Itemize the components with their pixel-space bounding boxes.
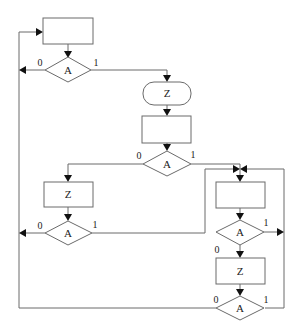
arrowhead-into-bottom-decision <box>236 289 244 296</box>
node-top-box <box>43 18 93 44</box>
arrowhead-into-left-z-box <box>64 175 72 182</box>
decision-1-branch-no: 0 <box>38 57 43 68</box>
arrowhead-decision-1-no <box>19 66 26 74</box>
edge-left-decision-yes-loop <box>92 169 236 233</box>
decision-2-branch-no: 0 <box>137 150 142 161</box>
decision-right-2-branch-no: 0 <box>214 294 219 305</box>
decision-right-1-label: A <box>236 226 244 238</box>
edge-decision-2-no <box>68 164 143 178</box>
node-decision-right-1: A 0 1 <box>215 217 269 255</box>
decision-left-label: A <box>64 227 72 239</box>
node-decision-1: A 0 1 <box>38 57 99 83</box>
edge-decision-2-yes <box>191 164 240 169</box>
node-decision-right-2: A 0 1 <box>214 294 269 321</box>
arrowhead-into-right-z-box <box>236 251 244 258</box>
decision-1-label: A <box>64 64 72 76</box>
edge-decision-1-yes <box>91 70 167 78</box>
arrowhead-into-right-top-box <box>236 175 244 182</box>
decision-2-branch-yes: 1 <box>191 149 196 160</box>
node-mid-box <box>142 116 191 143</box>
terminal-z-label: Z <box>164 87 171 99</box>
arrowhead-into-terminal-z <box>163 75 171 82</box>
decision-right-1-branch-yes: 1 <box>264 217 269 228</box>
decision-left-branch-no: 0 <box>38 220 43 231</box>
arrowhead-into-decision-2 <box>163 144 171 151</box>
node-terminal-z: Z <box>143 82 191 105</box>
arrowhead-into-left-decision <box>64 214 72 221</box>
arrowhead-right-decision-1-yes <box>277 228 284 236</box>
right-z-box-label: Z <box>237 265 244 277</box>
decision-right-1-branch-no: 0 <box>215 244 220 255</box>
arrowhead-into-top-box <box>36 28 43 36</box>
left-z-box-label: Z <box>65 188 72 200</box>
flowchart-diagram: A 0 1 Z A 0 1 Z A 0 1 A 0 1 Z <box>0 0 300 332</box>
node-right-z-box: Z <box>216 258 265 284</box>
node-decision-2: A 0 1 <box>137 149 196 177</box>
arrowhead-merge-from-right <box>240 165 247 173</box>
decision-right-2-label: A <box>236 302 244 314</box>
decision-1-branch-yes: 1 <box>94 57 99 68</box>
edge-left-return-loop <box>19 32 216 308</box>
decision-2-label: A <box>163 158 171 170</box>
decision-left-branch-yes: 1 <box>93 219 98 230</box>
arrowhead-left-decision-no <box>19 229 26 237</box>
decision-right-2-branch-yes: 1 <box>264 294 269 305</box>
node-right-top-box <box>216 182 265 208</box>
arrowhead-into-mid-box <box>163 109 171 116</box>
arrowhead-into-right-decision-1 <box>236 213 244 220</box>
node-decision-left: A 0 1 <box>38 219 98 246</box>
arrowhead-merge-from-left <box>233 165 240 173</box>
node-left-z-box: Z <box>44 182 93 207</box>
